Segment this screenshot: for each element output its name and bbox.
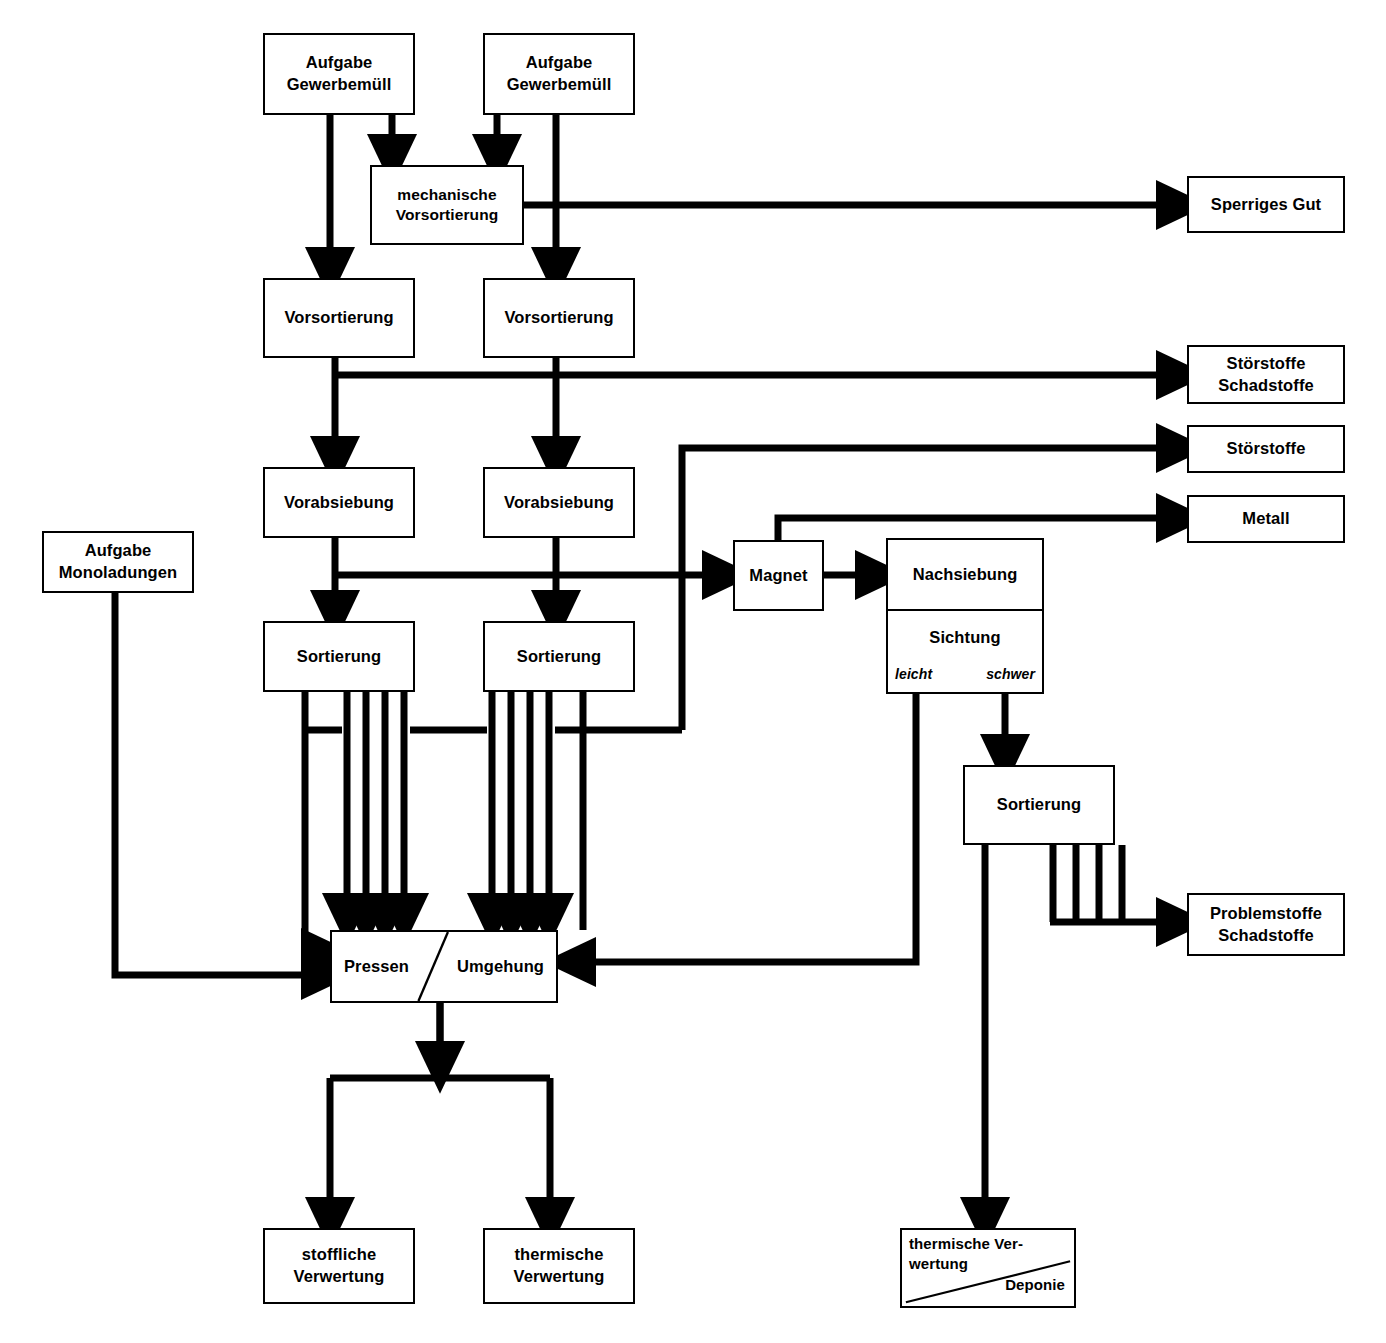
deponie-divider: [902, 1230, 1074, 1306]
node-label-line1: stoffliche: [302, 1244, 376, 1266]
node-label-sichtung: Sichtung: [929, 627, 1000, 649]
node-aufgabe-gewerbemuell-2[interactable]: Aufgabe Gewerbemüll: [483, 33, 635, 115]
label-schwer: schwer: [986, 665, 1035, 683]
node-label-line1: Aufgabe: [306, 52, 373, 74]
node-label-nachsiebung: Nachsiebung: [913, 564, 1018, 586]
node-label-line1: Vorsortierung: [284, 307, 393, 329]
node-sperriges-gut[interactable]: Sperriges Gut: [1187, 176, 1345, 233]
nachsiebung-cell: Nachsiebung: [888, 540, 1042, 609]
sichtung-fraction-labels: leicht schwer: [888, 665, 1042, 686]
node-label-line2: Verwertung: [294, 1266, 385, 1288]
node-pressen-umgehung[interactable]: Pressen Umgehung: [330, 930, 558, 1003]
node-magnet[interactable]: Magnet: [733, 540, 824, 611]
label-leicht: leicht: [895, 665, 932, 683]
node-thermische-verwertung-deponie[interactable]: thermische Ver- wertung Deponie: [900, 1228, 1076, 1308]
node-label-line1: Magnet: [749, 565, 807, 587]
pressen-umgehung-divider: [332, 932, 556, 1001]
node-sortierung-2[interactable]: Sortierung: [483, 621, 635, 692]
node-label-line1: mechanische: [397, 185, 496, 205]
node-label-line2: Schadstoffe: [1218, 925, 1314, 947]
node-stoffliche-verwertung[interactable]: stoffliche Verwertung: [263, 1228, 415, 1304]
connector-layer: [0, 0, 1386, 1343]
node-sortierung-3[interactable]: Sortierung: [963, 765, 1115, 845]
node-label-line1: Metall: [1242, 508, 1289, 530]
node-vorsortierung-2[interactable]: Vorsortierung: [483, 278, 635, 358]
node-label-line2: Vorsortierung: [396, 205, 499, 225]
node-thermische-verwertung[interactable]: thermische Verwertung: [483, 1228, 635, 1304]
node-label-line2: Monoladungen: [59, 562, 178, 584]
node-label-line1: Störstoffe: [1227, 438, 1306, 460]
node-label-line1: Vorsortierung: [504, 307, 613, 329]
node-label-line1: Aufgabe: [526, 52, 593, 74]
node-label-line1: Problemstoffe: [1210, 903, 1322, 925]
node-label-line1: thermische: [514, 1244, 603, 1266]
sichtung-cell: Sichtung: [888, 611, 1042, 665]
node-stoerstoffe[interactable]: Störstoffe: [1187, 425, 1345, 473]
node-aufgabe-monoladungen[interactable]: Aufgabe Monoladungen: [42, 531, 194, 593]
node-vorsortierung-1[interactable]: Vorsortierung: [263, 278, 415, 358]
node-label-line1: Störstoffe: [1227, 353, 1306, 375]
node-label-line1: Sortierung: [297, 646, 381, 668]
node-metall[interactable]: Metall: [1187, 495, 1345, 543]
node-stoerstoffe-schadstoffe[interactable]: Störstoffe Schadstoffe: [1187, 345, 1345, 404]
node-sortierung-1[interactable]: Sortierung: [263, 621, 415, 692]
flowchart-diagram: Aufgabe Gewerbemüll Aufgabe Gewerbemüll …: [0, 0, 1386, 1343]
node-label-line1: Sortierung: [517, 646, 601, 668]
node-mechanische-vorsortierung[interactable]: mechanische Vorsortierung: [370, 165, 524, 245]
node-nachsiebung-sichtung[interactable]: Nachsiebung Sichtung leicht schwer: [886, 538, 1044, 694]
node-label-line1: Aufgabe: [85, 540, 152, 562]
node-aufgabe-gewerbemuell-1[interactable]: Aufgabe Gewerbemüll: [263, 33, 415, 115]
node-problemstoffe-schadstoffe[interactable]: Problemstoffe Schadstoffe: [1187, 893, 1345, 956]
node-vorabsiebung-1[interactable]: Vorabsiebung: [263, 467, 415, 538]
node-label-line2: Verwertung: [514, 1266, 605, 1288]
node-label-line1: Sortierung: [997, 794, 1081, 816]
node-label-line1: Vorabsiebung: [504, 492, 614, 514]
node-label-line2: Schadstoffe: [1218, 375, 1314, 397]
node-label-line2: Gewerbemüll: [507, 74, 612, 96]
node-label-line2: Gewerbemüll: [287, 74, 392, 96]
node-label-line1: Sperriges Gut: [1211, 194, 1321, 216]
node-vorabsiebung-2[interactable]: Vorabsiebung: [483, 467, 635, 538]
node-label-line1: Vorabsiebung: [284, 492, 394, 514]
